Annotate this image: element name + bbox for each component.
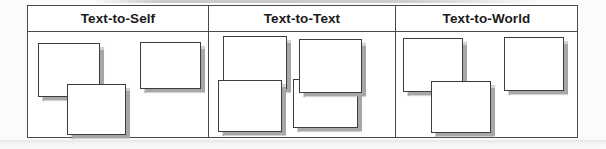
scan-artifact-bottom xyxy=(0,140,606,149)
connections-organizer-table: Text-to-Self Text-to-Text Text-to-World xyxy=(27,5,578,138)
scanned-worksheet-page: Text-to-Self Text-to-Text Text-to-World xyxy=(0,0,606,149)
blank-note-card xyxy=(67,84,126,135)
scan-artifact-top xyxy=(92,0,542,3)
blank-note-card xyxy=(299,39,362,93)
note-cards-layer xyxy=(28,6,577,137)
blank-note-card xyxy=(504,37,564,91)
blank-note-card xyxy=(140,42,201,89)
blank-note-card xyxy=(431,81,491,133)
blank-note-card xyxy=(218,80,282,132)
